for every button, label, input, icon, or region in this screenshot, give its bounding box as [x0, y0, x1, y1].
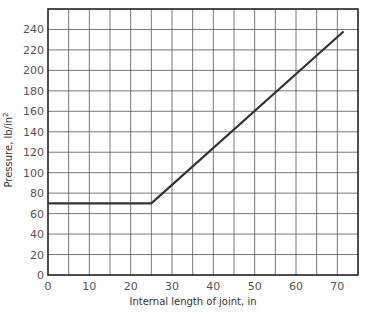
y-tick-label: 60: [30, 208, 44, 221]
y-tick-label: 100: [23, 167, 44, 180]
y-tick-label: 160: [23, 105, 44, 118]
plot-border: [48, 9, 358, 275]
y-tick-label: 180: [23, 85, 44, 98]
y-tick-label: 40: [30, 228, 44, 241]
x-tick-label: 10: [82, 280, 96, 293]
chart: 010203040506070 020406080100120140160180…: [0, 0, 367, 315]
y-tick-label: 80: [30, 187, 44, 200]
plot-frame: [48, 9, 358, 275]
y-tick-label: 220: [23, 44, 44, 57]
x-tick-label: 20: [124, 280, 138, 293]
x-tick-label: 70: [330, 280, 344, 293]
y-axis-label-text: Pressure, lb/in: [3, 117, 14, 188]
grid: [48, 9, 358, 275]
y-tick-label: 20: [30, 249, 44, 262]
y-tick-label: 0: [37, 269, 44, 282]
y-tick-label: 120: [23, 146, 44, 159]
series-layer: [48, 32, 344, 204]
x-tick-label: 0: [45, 280, 52, 293]
y-tick-label: 200: [23, 64, 44, 77]
y-tick-labels: 020406080100120140160180200220240: [23, 23, 44, 282]
x-tick-label: 30: [165, 280, 179, 293]
x-tick-labels: 010203040506070: [45, 280, 345, 293]
series-line-0: [48, 32, 344, 204]
x-tick-label: 60: [289, 280, 303, 293]
x-axis-label: Internal length of joint, in: [130, 296, 257, 307]
y-axis-label-superscript: 2: [2, 112, 10, 116]
x-tick-label: 40: [206, 280, 220, 293]
y-tick-label: 140: [23, 126, 44, 139]
y-tick-label: 240: [23, 23, 44, 36]
x-tick-label: 50: [248, 280, 262, 293]
y-axis-label: Pressure, lb/in2: [2, 112, 14, 187]
